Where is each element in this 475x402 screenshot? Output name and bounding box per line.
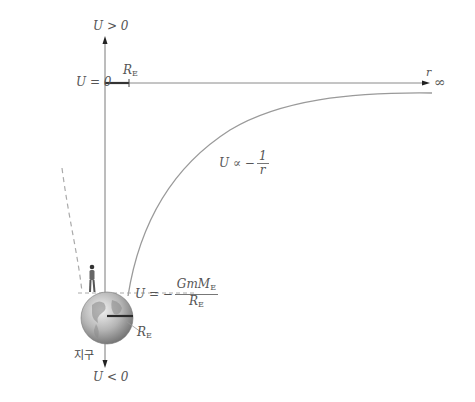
u-zero-label: U = 0: [76, 75, 111, 89]
diagram-canvas: [0, 0, 475, 402]
curve-label-fraction: 1r: [257, 150, 269, 177]
potential-curve: [128, 93, 432, 296]
re-top-subscript: E: [132, 69, 138, 78]
earth-globe: [81, 292, 141, 344]
u-negative-label: U < 0: [93, 370, 128, 384]
infinity-label: ∞: [434, 74, 446, 90]
surface-potential-prefix: U = −: [135, 287, 173, 301]
arrow-up-icon: [103, 36, 108, 44]
surface-denominator: RE: [175, 295, 218, 311]
person-icon: [90, 265, 95, 292]
r-axis-label: r: [426, 66, 431, 79]
curve-label: U ∝ −1r: [219, 150, 269, 177]
gravitational-potential-diagram: U > 0 U = 0 RE r ∞ U ∝ −1r U = −GmMERE R…: [0, 0, 475, 402]
surface-potential-label: U = −GmMERE: [135, 278, 218, 311]
re-earth-symbol: R: [137, 325, 146, 339]
curve-denominator: r: [257, 164, 269, 177]
re-top-symbol: R: [123, 63, 132, 77]
surface-numerator-main: GmM: [177, 277, 210, 291]
arrow-right-icon: [422, 81, 430, 86]
curve-numerator: 1: [257, 150, 269, 164]
u-positive-label: U > 0: [93, 19, 128, 33]
arrow-down-icon: [103, 360, 108, 368]
surface-numerator: GmME: [175, 278, 218, 295]
surface-potential-fraction: GmMERE: [175, 278, 218, 311]
earth-label: 지구: [74, 346, 94, 362]
surface-denominator-main: R: [189, 294, 198, 308]
curve-label-prefix: U ∝ −: [219, 156, 255, 170]
re-earth-subscript: E: [146, 331, 152, 340]
surface-numerator-sub: E: [210, 283, 216, 292]
r-axis: [105, 81, 430, 86]
surface-denominator-sub: E: [198, 300, 204, 309]
re-top-label: RE: [123, 63, 138, 78]
potential-curve-dashed: [62, 168, 82, 292]
re-earth-label: RE: [137, 325, 152, 340]
